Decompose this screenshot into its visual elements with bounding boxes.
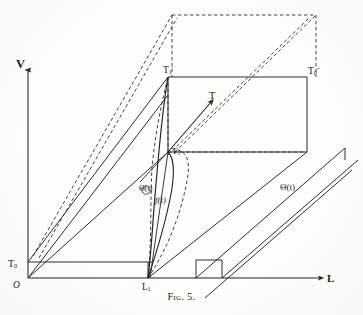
vector-leg-lower-left <box>140 152 168 182</box>
figure-caption: Fig. 5. <box>0 291 363 302</box>
t1prime-mark: ' <box>172 65 173 73</box>
vector-t-arrow <box>168 101 212 152</box>
axes-group <box>28 70 322 278</box>
angle-label-theta: Θ(t) <box>139 185 152 193</box>
band-mid-edge <box>222 160 358 278</box>
figure-5-container: V L O T0 L1 T1' T0" T1 T Θ(t) f(t) Θ(t) … <box>0 0 363 315</box>
t0dp-mark: " <box>317 66 320 74</box>
base-depth-edge-from-l1 <box>148 152 307 278</box>
point-label-t1: T1 <box>172 147 180 157</box>
t0-subscript: 0 <box>14 262 17 269</box>
axis-label-origin: O <box>13 281 20 291</box>
axis-label-v: V <box>16 58 25 71</box>
curve-label-f-of-t: f(t) <box>155 196 166 205</box>
curve-group <box>148 77 173 278</box>
curve-theta-of-t <box>148 152 173 278</box>
t1-subscript: 1 <box>178 150 181 156</box>
point-label-t0-double-prime: T0" <box>308 67 320 77</box>
base-depth-edge-left <box>28 152 168 278</box>
band-upper-edge <box>196 148 345 278</box>
point-label-t1-prime: T1' <box>163 66 173 76</box>
diagram-canvas <box>0 0 363 315</box>
point-label-t0: T0 <box>8 259 17 270</box>
vector-leg-down <box>150 152 168 278</box>
base-plane-group <box>28 77 307 278</box>
dashed-diagonal-right <box>175 15 316 152</box>
vector-label-t: T <box>209 91 215 102</box>
dashed-diagonal-left-outer <box>33 15 172 256</box>
axis-label-l: L <box>327 273 334 284</box>
dashed-diagonal-left-inner <box>39 18 177 258</box>
oblique-from-t0-to-t1prime <box>28 77 168 262</box>
dashed-diagonal-right-lower <box>168 18 309 155</box>
band-label-theta-of-t: Θ(t) <box>280 183 295 192</box>
